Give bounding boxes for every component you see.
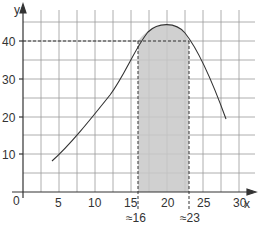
x-tick-25: 25	[197, 196, 211, 210]
left-bound-label: ≈16	[126, 211, 146, 225]
x-tick-30: 30	[233, 196, 247, 210]
x-tick-15: 15	[124, 196, 138, 210]
y-tick-30: 30	[2, 73, 16, 87]
chart: y x 0 5 10 15 20 25 30 10 20 30 40 ≈16 ≈…	[0, 0, 262, 225]
y-axis-label: y	[14, 3, 20, 17]
x-tick-5: 5	[55, 196, 62, 210]
origin-label: 0	[13, 194, 20, 208]
shaded-area	[138, 25, 189, 192]
y-tick-40: 40	[2, 35, 16, 49]
right-bound-label: ≈23	[180, 211, 200, 225]
x-tick-10: 10	[88, 196, 102, 210]
y-tick-20: 20	[2, 111, 16, 125]
x-tick-20: 20	[161, 196, 175, 210]
y-tick-10: 10	[2, 148, 16, 162]
